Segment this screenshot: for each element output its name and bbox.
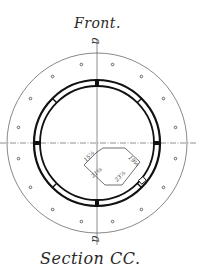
axis-label-bottom: a — [89, 235, 103, 242]
axis-label-top: a — [89, 37, 103, 44]
dim-lower-left: 21⅛ — [89, 166, 104, 180]
technical-drawing: 15⅞ 19⅛ 21⅛ 23⅞ Front. a a Section CC. — [0, 0, 197, 275]
dim-upper-left: 15⅞ — [82, 149, 95, 162]
view-title-section: Section CC. — [40, 249, 140, 268]
dim-upper-right: 19⅛ — [127, 154, 140, 167]
view-title-front: Front. — [74, 15, 121, 31]
